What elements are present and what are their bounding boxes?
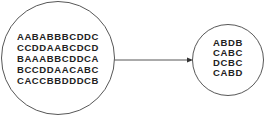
diagram-canvas: AABABBBCDDC CCDDAABCDCD BAAABBCDDCA BCCD…: [0, 0, 268, 118]
source-line: CCDDAABCDCD: [17, 42, 99, 53]
target-pool: ABDB CABC DCBC CABD: [193, 25, 264, 96]
source-pool: AABABBBCDDC CCDDAABCDCD BAAABBCDDCA BCCD…: [2, 2, 115, 115]
source-line: CACCBBDDDCB: [17, 75, 99, 86]
source-line: BCCDDAACABC: [17, 64, 99, 75]
arrow: [115, 58, 194, 63]
source-line: AABABBBCDDC: [17, 31, 99, 42]
target-line: CABD: [213, 67, 243, 78]
source-line: BAAABBCDDCA: [17, 53, 99, 64]
